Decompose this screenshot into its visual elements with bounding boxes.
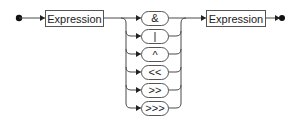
railroad-diagram: Expression & | ^ << >> >>> — [0, 0, 298, 124]
svg-text:|: | — [154, 30, 157, 42]
svg-text:<<: << — [149, 66, 162, 78]
nonterminal-label: Expression — [209, 13, 263, 25]
arrow-icon — [201, 15, 206, 21]
svg-text:>>>: >>> — [145, 102, 164, 114]
nonterminal-label: Expression — [47, 13, 101, 25]
svg-text:>>: >> — [149, 84, 162, 96]
svg-text:^: ^ — [152, 49, 158, 61]
end-node — [279, 15, 285, 21]
arrow-icon — [40, 15, 45, 21]
nonterminal-expression-2: Expression — [207, 11, 266, 27]
nonterminal-expression-1: Expression — [46, 11, 104, 27]
svg-text:&: & — [151, 12, 159, 24]
